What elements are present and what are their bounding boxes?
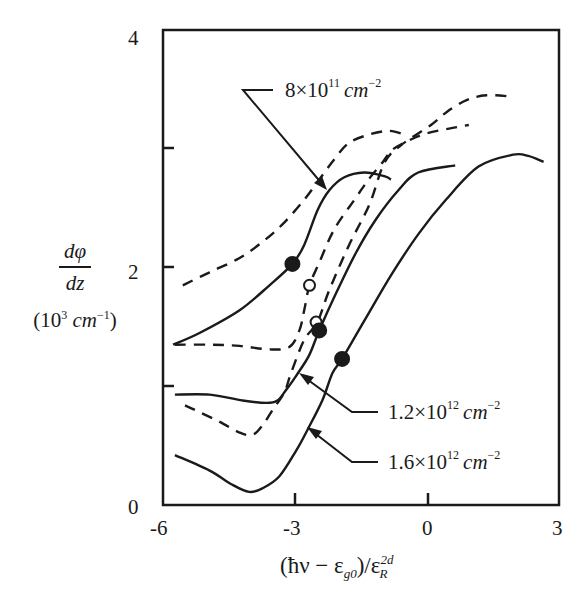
- y-axis-label-denominator: dz: [0, 270, 150, 296]
- y-axis-label-unit: (103 cm−1): [0, 302, 150, 333]
- series-line-2: [175, 125, 469, 350]
- x-axis-label: (ħν − εg0)/ε2dR: [280, 552, 500, 582]
- filled-circle-marker-3: [312, 323, 326, 337]
- open-circle-marker-1: [304, 280, 315, 291]
- y-tick-label-4: 4: [128, 26, 139, 50]
- x-tick-label-0: 0: [422, 516, 433, 540]
- marker-layer: [285, 257, 349, 366]
- leader-line-1.2e12: [304, 377, 378, 412]
- series-line-1: [173, 172, 391, 344]
- leader-line-8e11: [243, 90, 323, 185]
- x-tick-label-neg3: -3: [283, 516, 301, 540]
- leader-line-1.6e12: [312, 431, 378, 462]
- annotation-1.6e12: 1.6×1012cm−2: [307, 427, 500, 474]
- x-ticks: [295, 493, 428, 505]
- y-ticks: [163, 148, 174, 386]
- filled-circle-marker-0: [285, 257, 299, 271]
- series-layer: [173, 95, 543, 492]
- y-axis-label: dφ dz (103 cm−1): [0, 238, 150, 333]
- label-1.2e12: 1.2×1012cm−2: [388, 398, 500, 424]
- series-line-5: [175, 154, 544, 492]
- filled-circle-marker-4: [335, 352, 349, 366]
- fraction-bar: [59, 266, 91, 268]
- x-tick-label-3: 3: [552, 516, 563, 540]
- label-1.6e12: 1.6×1012cm−2: [388, 448, 500, 474]
- label-8e11: 8×1011cm−2: [285, 76, 381, 102]
- y-tick-label-0: 0: [128, 495, 139, 519]
- x-tick-label-neg6: -6: [150, 516, 168, 540]
- y-axis-label-numerator: dφ: [0, 238, 150, 264]
